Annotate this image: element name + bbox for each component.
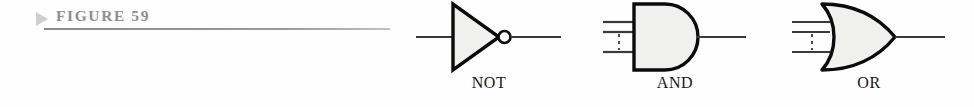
gate-not: NOT bbox=[414, 0, 564, 107]
or-gate-body bbox=[822, 4, 895, 70]
figure-page: FIGURE 59 NOT AND bbox=[0, 0, 974, 107]
not-gate-symbol bbox=[414, 0, 564, 74]
gate-and: AND bbox=[601, 0, 749, 107]
gate-or-label: OR bbox=[790, 74, 948, 92]
gate-and-label: AND bbox=[601, 74, 749, 92]
figure-rule bbox=[44, 28, 390, 30]
not-triangle-body bbox=[453, 4, 499, 70]
or-gate-symbol bbox=[790, 0, 948, 74]
not-inversion-bubble bbox=[499, 31, 511, 43]
gate-not-label: NOT bbox=[414, 74, 564, 92]
triangle-right-icon bbox=[36, 12, 48, 26]
and-gate-symbol bbox=[601, 0, 749, 74]
figure-label: FIGURE 59 bbox=[56, 6, 150, 26]
gate-or: OR bbox=[790, 0, 948, 107]
and-gate-body bbox=[634, 4, 698, 70]
figure-header: FIGURE 59 bbox=[36, 6, 396, 40]
